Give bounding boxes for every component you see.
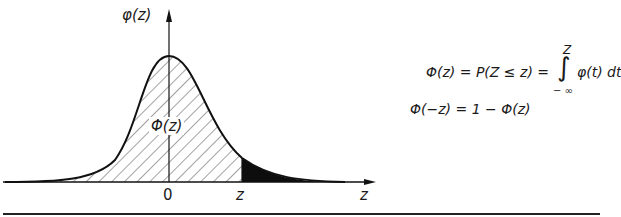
x-axis-arrow-icon	[364, 179, 376, 185]
x-axis-label: z	[360, 186, 368, 204]
integral-sign: ∫	[557, 52, 571, 82]
area-label: Φ(z)	[149, 117, 184, 135]
integral-lower-limit: − ∞	[553, 85, 573, 96]
formula-symmetry: Φ(−z) = 1 − Φ(z)	[410, 101, 530, 117]
hatched-area	[5, 56, 242, 182]
tick-z: z	[236, 186, 244, 204]
tick-zero: 0	[163, 186, 173, 204]
y-axis-label: φ(z)	[122, 6, 151, 24]
integral: Z ∫ − ∞ φ(t) dt	[549, 43, 609, 103]
integrand: φ(t) dt	[577, 64, 621, 80]
formula-cdf: Φ(z) = P(Z ≤ z) =	[426, 64, 549, 80]
y-axis-arrow-icon	[166, 9, 172, 22]
